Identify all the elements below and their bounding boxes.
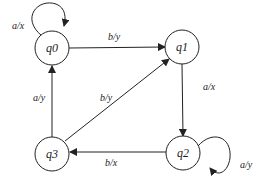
transition-q1-q2: a/x	[182, 64, 216, 136]
transition-q3-q0: a/y	[33, 66, 52, 137]
transition-q0-q1: b/y	[69, 31, 165, 48]
state-label: q0	[46, 41, 58, 55]
transition-q2-q2: a/y	[198, 137, 253, 173]
transition-label: b/y	[108, 31, 121, 42]
transition-label: a/y	[240, 159, 253, 170]
state-label: q2	[177, 146, 189, 160]
state-label: q3	[46, 147, 58, 161]
transition-label: a/x	[12, 20, 25, 31]
state-q2: q2	[166, 136, 200, 170]
state-q3: q3	[35, 137, 69, 171]
transition-label: a/y	[33, 92, 46, 103]
transition-q2-q3: b/x	[70, 152, 166, 168]
transition-q0-q0: a/x	[12, 3, 65, 36]
state-q1: q1	[165, 30, 199, 64]
transition-label: b/y	[100, 92, 113, 103]
state-q0: q0	[35, 31, 69, 65]
transition-label: b/x	[105, 157, 118, 168]
transition-q3-q1: b/y	[65, 59, 169, 141]
state-label: q1	[176, 40, 188, 54]
state-diagram: a/x b/y a/x a/y b/x a/y b/y q0 q1 q2	[0, 0, 265, 185]
transition-label: a/x	[203, 81, 216, 92]
